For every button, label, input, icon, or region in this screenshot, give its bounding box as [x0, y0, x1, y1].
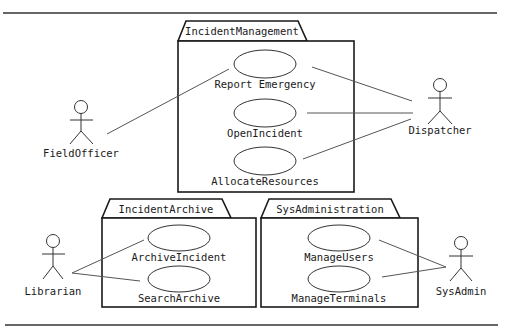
use-case-label: OpenIncident [227, 127, 303, 139]
use-case-diagram: IncidentManagement IncidentArchive SysAd… [0, 0, 515, 334]
use-case-ellipse [148, 225, 210, 251]
actor-left-leg [450, 268, 461, 281]
use-case-ellipse [234, 147, 296, 175]
actor-field-officer[interactable]: FieldOfficer [43, 101, 119, 160]
actor-librarian[interactable]: Librarian [25, 235, 82, 298]
actor-dispatcher[interactable]: Dispatcher [408, 79, 471, 137]
actor-left-leg [70, 131, 81, 144]
use-case-label: ManageTerminals [292, 292, 387, 304]
package-name: IncidentArchive [119, 203, 214, 215]
use-case-ellipse [234, 50, 296, 78]
actor-label: FieldOfficer [43, 147, 119, 159]
actor-right-leg [81, 131, 93, 144]
actor-head [434, 79, 447, 92]
actor-head [47, 235, 60, 248]
package-name: IncidentManagement [185, 25, 299, 37]
actor-right-leg [53, 266, 63, 279]
actor-head [455, 237, 468, 250]
use-case-ellipse [308, 266, 370, 292]
actor-right-leg [461, 268, 472, 281]
use-case-ellipse [234, 99, 296, 127]
use-case-label: AllocateResources [211, 175, 318, 187]
actor-label: Librarian [25, 285, 82, 297]
actor-left-leg [428, 111, 440, 124]
actor-label: Dispatcher [408, 124, 471, 136]
package-name: SysAdministration [276, 203, 383, 215]
actor-head [75, 101, 88, 114]
use-case-ellipse [148, 266, 210, 292]
actor-left-leg [43, 266, 53, 279]
use-case-label: SearchArchive [138, 292, 220, 304]
actor-sysadmin[interactable]: SysAdmin [436, 237, 487, 298]
actor-label: SysAdmin [436, 285, 487, 297]
actor-right-leg [440, 111, 452, 124]
use-case-ellipse [308, 225, 370, 251]
use-case-label: Report Emergency [214, 78, 315, 90]
use-case-label: ManageUsers [304, 251, 374, 263]
use-case-manage-users[interactable]: ManageUsers [304, 225, 374, 263]
use-case-label: ArchiveIncident [132, 251, 227, 263]
